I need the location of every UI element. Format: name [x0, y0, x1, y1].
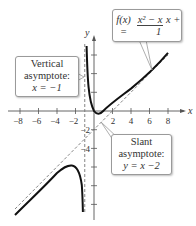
x-tick-label: 6 [147, 116, 152, 126]
x-axis-arrow-icon [180, 109, 186, 113]
x-tick-label: 2 [111, 116, 116, 126]
function-curve-right-branch [87, 46, 168, 114]
function-callout: f(x) = x² − x x + 1 [112, 9, 182, 42]
vertical-callout-line2: asymptote: [16, 70, 78, 82]
slant-callout-line3: y = x −2 [112, 160, 171, 172]
x-tick-label: −4 [50, 116, 60, 126]
x-tick-label: −8 [13, 116, 23, 126]
x-tick-label: 4 [129, 116, 134, 126]
y-axis-label: y [84, 27, 90, 38]
function-lhs: f(x) = [113, 14, 134, 38]
x-tick-label: −6 [32, 116, 42, 126]
y-tick-label: −2 [80, 125, 90, 135]
x-tick-label: 8 [166, 116, 171, 126]
y-tick-label: −4 [80, 144, 90, 154]
x-tick-label: −2 [69, 116, 79, 126]
function-fraction: x² − x x + 1 [136, 14, 181, 38]
vertical-callout-line1: Vertical [16, 58, 78, 70]
vertical-callout-line3: x = −1 [16, 82, 78, 94]
y-tick-labels: −2 −4 [80, 125, 90, 154]
x-tick-labels: −8 −6 −4 −2 2 4 6 8 [13, 116, 171, 126]
y-axis-arrow-icon [92, 35, 96, 41]
x-axis-label: x [187, 105, 193, 116]
slant-callout-line1: Slant [112, 136, 171, 148]
vertical-asymptote-callout: Vertical asymptote: x = −1 [15, 56, 79, 97]
function-curve-left-branch [15, 165, 83, 215]
function-callout-pointer [139, 40, 152, 70]
slant-asymptote-callout: Slant asymptote: y = x −2 [111, 134, 172, 175]
function-numerator: x² − x [137, 14, 164, 26]
slant-callout-line2: asymptote: [112, 148, 171, 160]
